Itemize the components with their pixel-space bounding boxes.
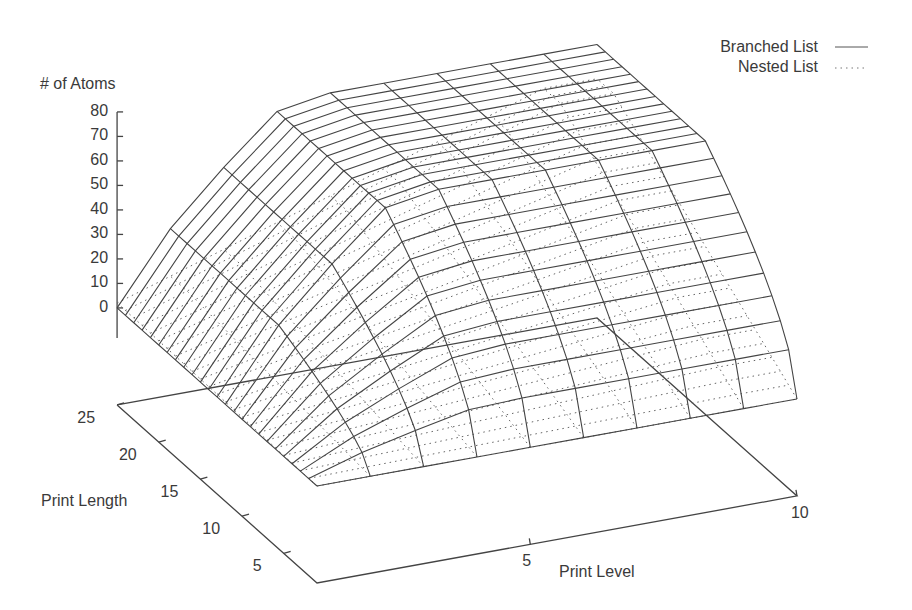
nested-grid-line bbox=[170, 276, 370, 476]
y-tick-label: 10 bbox=[202, 520, 220, 538]
z-tick-label: 0 bbox=[99, 298, 108, 316]
z-tick-label: 30 bbox=[90, 224, 108, 242]
z-tick-label: 70 bbox=[90, 126, 108, 144]
y-tick bbox=[284, 551, 291, 553]
x-axis-label: Print Level bbox=[559, 563, 635, 581]
y-tick-label: 20 bbox=[119, 446, 137, 464]
branched-grid-line bbox=[317, 399, 797, 486]
x-tick-label: 5 bbox=[522, 552, 531, 570]
z-tick-label: 20 bbox=[90, 249, 108, 267]
branched-grid-line bbox=[309, 350, 789, 479]
nested-grid-line bbox=[597, 79, 797, 399]
branched-grid-line bbox=[170, 229, 370, 477]
nested-grid-line bbox=[544, 88, 744, 408]
nested-grid-line bbox=[167, 149, 647, 348]
z-tick-label: 40 bbox=[90, 200, 108, 218]
legend-branched-label: Branched List bbox=[720, 38, 818, 56]
x-tick-label: 10 bbox=[791, 504, 809, 522]
y-tick-label: 15 bbox=[161, 483, 179, 501]
surface-plot bbox=[0, 0, 912, 610]
legend-nested-label: Nested List bbox=[738, 58, 818, 76]
axes bbox=[117, 112, 797, 583]
nested-grid-line bbox=[300, 371, 780, 471]
z-axis-label: # of Atoms bbox=[40, 75, 116, 93]
base-plane-outline bbox=[117, 318, 797, 583]
y-tick bbox=[242, 514, 249, 516]
nested-grid-line bbox=[117, 79, 597, 303]
legend-lines bbox=[835, 47, 868, 68]
z-tick-label: 50 bbox=[90, 175, 108, 193]
nested-grid-line bbox=[250, 288, 730, 425]
nested-grid-line bbox=[437, 142, 637, 428]
branched-list-surface bbox=[117, 44, 797, 486]
nested-grid-line bbox=[242, 274, 722, 417]
nested-list-surface bbox=[117, 79, 797, 486]
z-tick-label: 60 bbox=[90, 151, 108, 169]
x-tick bbox=[529, 538, 530, 544]
branched-grid-line bbox=[250, 194, 730, 427]
y-axis-label: Print Length bbox=[41, 492, 127, 510]
nested-grid-line bbox=[384, 169, 584, 438]
z-tick-label: 80 bbox=[90, 102, 108, 120]
z-tick-label: 10 bbox=[90, 273, 108, 291]
y-tick bbox=[159, 440, 166, 442]
branched-grid-line bbox=[117, 308, 317, 486]
nested-grid-line bbox=[284, 343, 764, 455]
nested-grid-line bbox=[184, 177, 664, 364]
branched-grid-line bbox=[242, 176, 722, 419]
branched-grid-line bbox=[225, 141, 705, 404]
y-tick-label: 5 bbox=[253, 557, 262, 575]
nested-grid-line bbox=[142, 108, 622, 326]
y-tick-label: 25 bbox=[77, 409, 95, 427]
branched-grid-line bbox=[284, 273, 764, 456]
y-tick bbox=[200, 477, 207, 479]
